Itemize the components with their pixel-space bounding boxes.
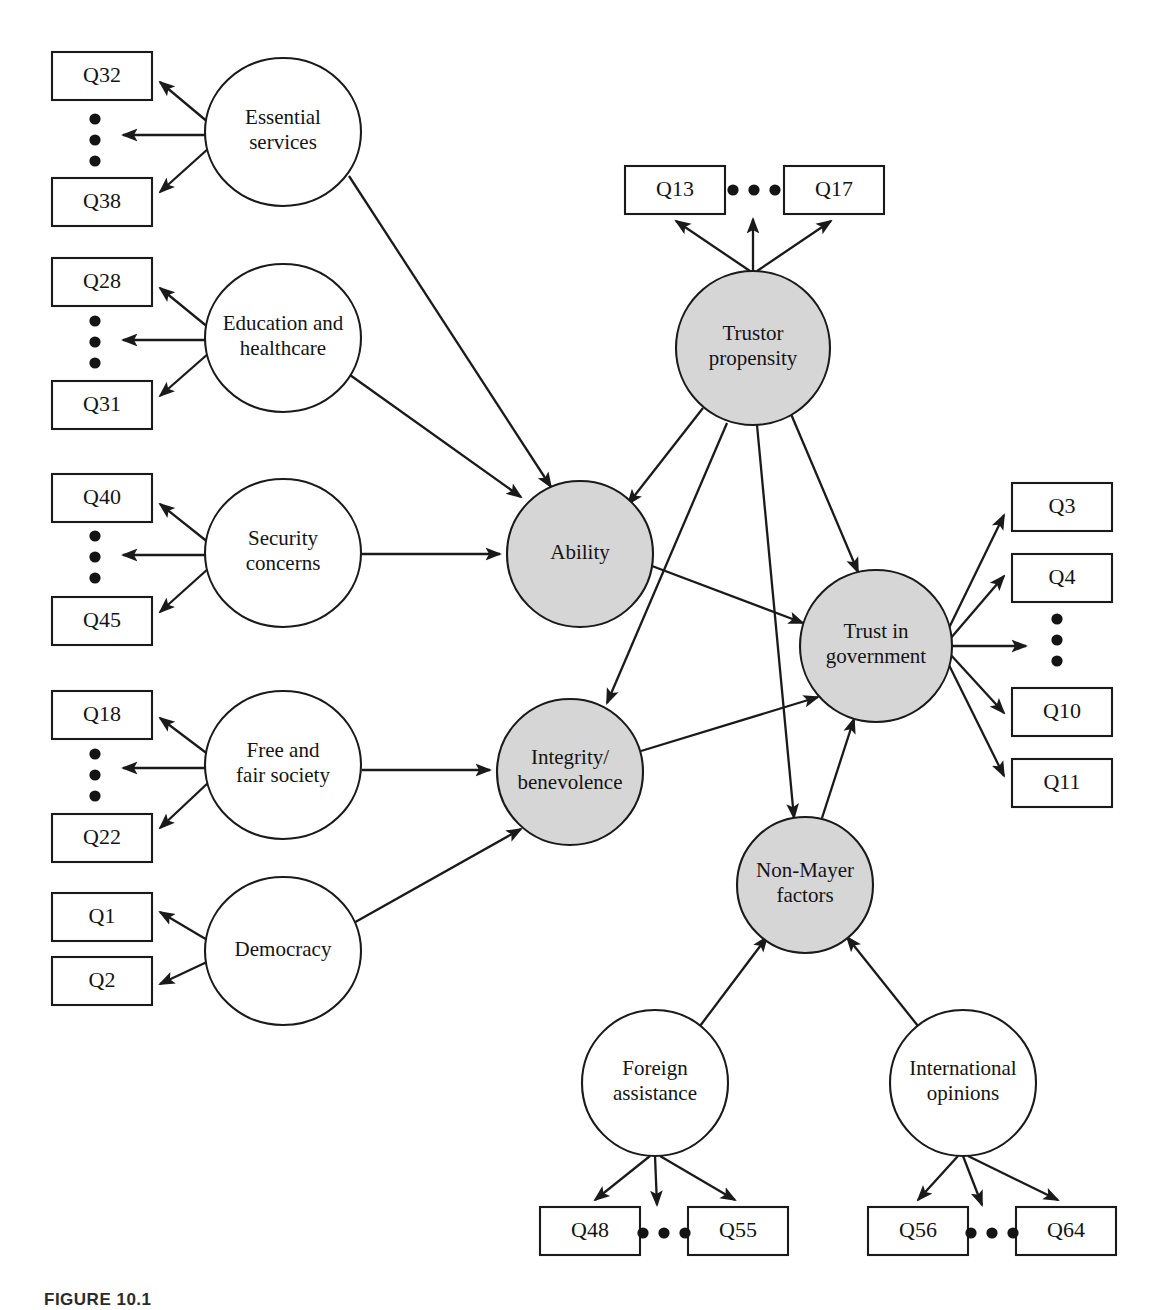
- indicator-box-label: Q64: [1047, 1217, 1085, 1242]
- edge-security_concerns-q45: [160, 568, 209, 612]
- ellipsis-dot: [89, 113, 100, 124]
- ellipsis-marker-ellipsis_essential_services: [89, 113, 100, 166]
- ellipsis-marker-ellipsis_foreign_assistance: [637, 1227, 690, 1238]
- edge-democracy-q1: [160, 912, 209, 941]
- indicator-box-q32: Q32: [52, 52, 152, 100]
- latent-node-foreign_assistance: Foreignassistance: [582, 1010, 728, 1156]
- latent-node-label-line: Essential: [245, 105, 321, 129]
- indicator-box-label: Q28: [83, 268, 121, 293]
- ellipsis-dot: [637, 1227, 648, 1238]
- sem-path-diagram: Q32Q38Q28Q31Q40Q45Q18Q22Q1Q2Q13Q17Q3Q4Q1…: [0, 0, 1163, 1310]
- latent-node-trustor_propensity: Trustorpropensity: [676, 271, 830, 425]
- ellipsis-dot: [1007, 1227, 1018, 1238]
- edge-international_opinions-nonmayer: [847, 937, 918, 1026]
- latent-node-label-line: assistance: [613, 1081, 697, 1105]
- ellipsis-dot: [1051, 634, 1062, 645]
- edge-trustor_propensity-q17: [757, 221, 831, 271]
- latent-node-label-line: International: [909, 1056, 1016, 1080]
- latent-node-label-line: government: [826, 644, 926, 668]
- latent-node-label-line: Foreign: [622, 1056, 688, 1080]
- ellipsis-dot: [89, 748, 100, 759]
- edge-integrity-trust: [641, 697, 818, 751]
- latent-node-ability: Ability: [507, 481, 653, 627]
- edge-international_opinions-dots: [963, 1156, 982, 1205]
- latent-node-label-line: Security: [248, 526, 318, 550]
- indicator-box-label: Q18: [83, 701, 121, 726]
- indicator-box-q64: Q64: [1016, 1207, 1116, 1255]
- ellipsis-dot: [727, 184, 738, 195]
- ellipsis-dot: [89, 551, 100, 562]
- edge-education_healthcare-q31: [160, 353, 209, 396]
- latent-node-label-line: propensity: [709, 346, 798, 370]
- indicator-box-q10: Q10: [1012, 688, 1112, 736]
- indicator-box-q56: Q56: [868, 1207, 968, 1255]
- edge-foreign_assistance-dots: [655, 1156, 657, 1205]
- ellipsis-dot: [986, 1227, 997, 1238]
- indicator-box-label: Q38: [83, 188, 121, 213]
- latent-node-label-line: Trustor: [722, 321, 783, 345]
- edge-foreign_assistance-nonmayer: [700, 937, 767, 1026]
- figure-caption: FIGURE 10.1: [44, 1290, 152, 1309]
- ellipsis-dot: [965, 1227, 976, 1238]
- latent-node-label-line: fair society: [236, 763, 330, 787]
- indicator-box-q31: Q31: [52, 381, 152, 429]
- edge-nonmayer-trust: [822, 719, 854, 818]
- indicator-box-q18: Q18: [52, 691, 152, 739]
- latent-node-democracy: Democracy: [205, 877, 361, 1025]
- edge-free_fair_society-q22: [160, 782, 209, 828]
- indicator-box-label: Q45: [83, 607, 121, 632]
- indicator-box-label: Q31: [83, 391, 121, 416]
- ellipsis-dot: [89, 336, 100, 347]
- indicator-box-label: Q11: [1043, 769, 1080, 794]
- edge-free_fair_society-q18: [160, 718, 209, 755]
- indicator-box-label: Q2: [89, 967, 116, 992]
- latent-node-non_mayer_factors: Non-Mayerfactors: [737, 817, 873, 953]
- ellipsis-dot: [89, 134, 100, 145]
- indicator-box-q22: Q22: [52, 814, 152, 862]
- ellipsis-dot: [769, 184, 780, 195]
- edge-foreign_assistance-q55: [660, 1156, 735, 1200]
- edge-democracy-integrity: [350, 829, 521, 925]
- ellipsis-dot: [748, 184, 759, 195]
- indicator-box-q11: Q11: [1012, 759, 1112, 807]
- indicator-box-label: Q17: [815, 176, 853, 201]
- edge-trustor_propensity-q13: [676, 221, 750, 271]
- edge-essential_services-q32: [160, 82, 209, 123]
- ellipsis-dot: [1051, 613, 1062, 624]
- latent-node-label-line: opinions: [927, 1081, 999, 1105]
- edge-trustor_propensity-ability: [628, 408, 703, 504]
- latent-node-label-line: Trust in: [843, 619, 909, 643]
- edge-international_opinions-q64: [968, 1156, 1058, 1200]
- indicator-box-q38: Q38: [52, 178, 152, 226]
- edge-essential_services-q38: [160, 148, 209, 192]
- ellipsis-dot: [89, 530, 100, 541]
- latent-node-label-line: Free and: [247, 738, 320, 762]
- indicator-box-q55: Q55: [688, 1207, 788, 1255]
- latent-node-label-line: factors: [776, 883, 833, 907]
- latent-node-label-line: Democracy: [235, 937, 332, 961]
- ellipsis-dot: [89, 357, 100, 368]
- latent-node-label-line: Integrity/: [531, 745, 609, 769]
- indicator-box-q48: Q48: [540, 1207, 640, 1255]
- latent-node-trust_in_government: Trust ingovernment: [800, 570, 952, 722]
- edge-education_healthcare-ability: [350, 375, 521, 497]
- ellipsis-dot: [89, 790, 100, 801]
- ellipsis-dot: [679, 1227, 690, 1238]
- indicator-box-label: Q13: [656, 176, 694, 201]
- indicator-box-q3: Q3: [1012, 483, 1112, 531]
- ellipsis-dot: [89, 769, 100, 780]
- latent-node-label-line: healthcare: [240, 336, 326, 360]
- latent-node-label-line: Non-Mayer: [756, 858, 854, 882]
- indicator-box-label: Q32: [83, 62, 121, 87]
- indicator-box-q4: Q4: [1012, 554, 1112, 602]
- latent-node-label-line: services: [249, 130, 317, 154]
- ellipsis-marker-ellipsis_free_fair_society: [89, 748, 100, 801]
- latent-node-essential_services: Essentialservices: [205, 58, 361, 206]
- edge-essential_services-ability: [349, 176, 551, 487]
- latent-node-label-line: concerns: [246, 551, 321, 575]
- ellipsis-dot: [89, 315, 100, 326]
- latent-node-education_healthcare: Education andhealthcare: [205, 264, 361, 412]
- indicator-box-q17: Q17: [784, 166, 884, 214]
- latent-node-free_fair_society: Free andfair society: [205, 691, 361, 839]
- indicator-box-q13: Q13: [625, 166, 725, 214]
